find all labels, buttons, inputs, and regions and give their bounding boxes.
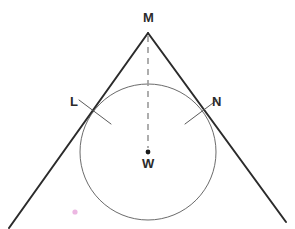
left-tangent-line [9,33,148,228]
center-point-dot [146,150,151,155]
geometry-canvas [0,0,295,229]
geometry-figure: M L N W [0,0,295,229]
tangent-tick-left-icon [79,100,111,124]
label-apex-m: M [143,11,154,24]
label-tangent-point-l: L [70,95,78,108]
label-tangent-point-n: N [212,95,222,108]
right-tangent-line [148,33,286,222]
stray-speck-dot [72,209,77,214]
label-center-w: W [142,157,154,170]
